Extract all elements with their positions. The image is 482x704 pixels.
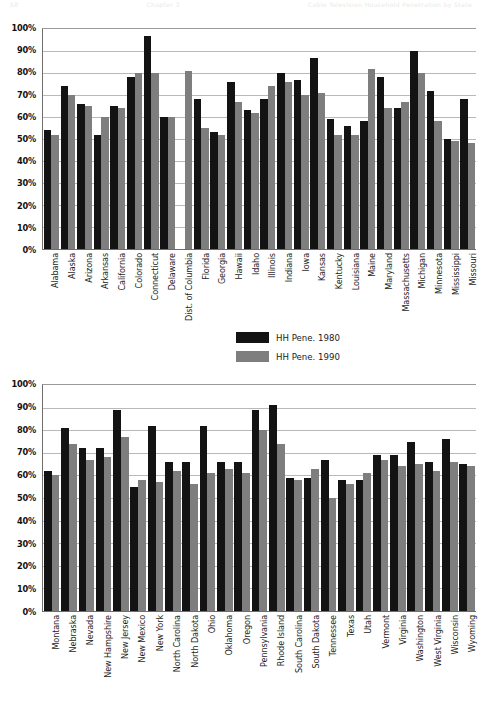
bar-1980 xyxy=(44,471,52,611)
x-tick-label: South Dakota xyxy=(302,612,319,698)
bar-1990 xyxy=(401,102,408,249)
y-tick-label: 20% xyxy=(17,201,36,211)
x-tick-label: Hawaii xyxy=(226,250,243,328)
x-tick-label: Missouri xyxy=(459,250,476,328)
bar-group xyxy=(147,385,164,611)
bar-group xyxy=(176,29,193,249)
bar-group xyxy=(78,385,95,611)
x-tick-label: West Virginia xyxy=(424,612,441,698)
x-axis-labels-top: AlabamaAlaskaArizonaArkansasCaliforniaCo… xyxy=(42,250,476,328)
x-tick-label: Washington xyxy=(407,612,424,698)
bar-1990 xyxy=(138,480,146,611)
bar-1980 xyxy=(269,405,277,611)
bar-group xyxy=(285,385,302,611)
bar-1990 xyxy=(415,464,423,611)
bar-group xyxy=(276,29,293,249)
bar-1980 xyxy=(210,132,217,249)
bar-1980 xyxy=(227,82,234,249)
bar-1990 xyxy=(329,498,337,611)
bar-1980 xyxy=(165,462,173,611)
bar-1990 xyxy=(151,73,158,249)
bar-1990 xyxy=(285,82,292,249)
legend-item: HH Pene. 1990 xyxy=(236,350,340,363)
x-tick-label: Utah xyxy=(354,612,371,698)
bar-group xyxy=(110,29,127,249)
x-tick-label: New York xyxy=(146,612,163,698)
x-tick-label: Florida xyxy=(192,250,209,328)
y-tick-label: 50% xyxy=(17,134,36,144)
plot-area-top xyxy=(42,28,476,250)
bar-1990 xyxy=(207,473,215,611)
bar-1980 xyxy=(110,106,117,249)
bar-1980 xyxy=(373,455,381,611)
bar-1990 xyxy=(85,106,92,249)
bar-1980 xyxy=(294,80,301,249)
bar-1990 xyxy=(294,480,302,611)
bar-1980 xyxy=(79,448,87,611)
y-tick-label: 30% xyxy=(17,178,36,188)
bar-1980 xyxy=(321,460,329,611)
bar-group xyxy=(393,29,410,249)
x-tick-label: New Hampshire xyxy=(94,612,111,698)
page-header-right: Cable Television Household Penetration b… xyxy=(308,1,472,11)
x-tick-label: Kentucky xyxy=(326,250,343,328)
bar-group xyxy=(126,29,143,249)
x-tick-label: Kansas xyxy=(309,250,326,328)
x-tick-label: Michigan xyxy=(409,250,426,328)
bar-1980 xyxy=(61,86,68,249)
bar-1980 xyxy=(407,442,415,612)
bar-group xyxy=(43,29,60,249)
bar-1980 xyxy=(44,130,51,249)
bar-group xyxy=(243,29,260,249)
bar-group xyxy=(409,29,426,249)
bar-1980 xyxy=(160,117,167,249)
bar-group xyxy=(233,385,250,611)
bar-1990 xyxy=(334,135,341,249)
bar-1990 xyxy=(168,117,175,249)
bar-group xyxy=(199,385,216,611)
y-tick-label: 60% xyxy=(17,112,36,122)
y-tick-label: 100% xyxy=(12,379,37,389)
x-tick-label: Nevada xyxy=(77,612,94,698)
bar-1990 xyxy=(318,93,325,249)
y-tick-label: 40% xyxy=(17,516,36,526)
bar-group xyxy=(293,29,310,249)
bar-group xyxy=(443,29,460,249)
x-tick-label: North Dakota xyxy=(181,612,198,698)
bar-group xyxy=(93,29,110,249)
y-tick-label: 80% xyxy=(17,425,36,435)
bar-1990 xyxy=(251,113,258,249)
bar-group xyxy=(112,385,129,611)
x-tick-label: North Carolina xyxy=(164,612,181,698)
bar-group xyxy=(43,385,60,611)
bar-1980 xyxy=(96,448,104,611)
bar-1990 xyxy=(368,69,375,249)
x-tick-label: Tennessee xyxy=(320,612,337,698)
y-tick-label: 80% xyxy=(17,67,36,77)
y-tick-label: 10% xyxy=(17,584,36,594)
bar-group xyxy=(459,385,476,611)
bar-group xyxy=(407,385,424,611)
legend-swatch-icon xyxy=(236,351,269,362)
bar-1980 xyxy=(427,91,434,249)
x-tick-label: Arizona xyxy=(75,250,92,328)
bar-1990 xyxy=(173,471,181,611)
bar-1980 xyxy=(444,139,451,249)
y-tick-label: 30% xyxy=(17,539,36,549)
bar-group xyxy=(182,385,199,611)
bar-group xyxy=(343,29,360,249)
x-tick-label: Minnesota xyxy=(426,250,443,328)
x-tick-label: Rhode Island xyxy=(268,612,285,698)
bar-1990 xyxy=(86,460,94,611)
x-tick-label: Pennsylvania xyxy=(250,612,267,698)
bar-group xyxy=(226,29,243,249)
bar-group xyxy=(130,385,147,611)
bar-1980 xyxy=(200,426,208,611)
bar-1980 xyxy=(61,428,69,611)
bar-1980 xyxy=(410,51,417,249)
bar-1980 xyxy=(356,480,364,611)
x-tick-label: Indiana xyxy=(276,250,293,328)
bar-1990 xyxy=(277,444,285,611)
bar-group xyxy=(193,29,210,249)
bar-1980 xyxy=(127,77,134,249)
